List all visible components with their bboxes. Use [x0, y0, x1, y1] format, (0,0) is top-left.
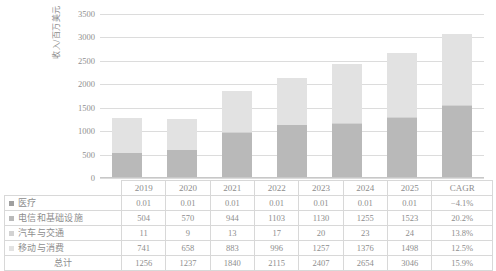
table-row: 医疗0.010.010.010.010.010.010.01−4.1% [5, 196, 493, 211]
table-cell-value: 0.01 [166, 196, 210, 211]
table-cell-value: 996 [254, 241, 298, 256]
table-header-year: 2024 [343, 181, 387, 196]
table-header-year: 2020 [166, 181, 210, 196]
y-axis-title: 收入/百万美元 [50, 0, 64, 80]
table-cell-total: 1840 [210, 256, 254, 271]
table-cell-value: 0.01 [387, 196, 431, 211]
table-cell-value: 17 [254, 226, 298, 241]
bar-segment[interactable] [112, 118, 142, 153]
total-label-text: 总计 [54, 258, 73, 268]
gridline: 3500 [100, 14, 484, 15]
bar-segment[interactable] [167, 119, 197, 150]
table-cell-value: 1103 [254, 211, 298, 226]
table-cell-value: 944 [210, 211, 254, 226]
table-corner-cell [5, 181, 122, 196]
table-cell-total: 1256 [122, 256, 166, 271]
bar-group[interactable] [332, 64, 362, 177]
table-cell-cagr: 20.2% [432, 211, 493, 226]
legend-swatch-icon [9, 201, 14, 206]
table-cell-value: 13 [210, 226, 254, 241]
gridline: 3000 [100, 37, 484, 38]
bar-segment[interactable] [277, 125, 307, 177]
legend-swatch-icon [9, 246, 14, 251]
bar-group[interactable] [167, 119, 197, 177]
legend-swatch-icon [9, 216, 14, 221]
table-cell-value: 504 [122, 211, 166, 226]
total-label: 总计 [5, 256, 122, 271]
table-header-year: 2019 [122, 181, 166, 196]
chart-plot-region: 收入/百万美元 0500100015002000250030003500 [0, 0, 496, 180]
table-row: 移动与消费74165888399612571376149812.5% [5, 241, 493, 256]
table-cell-value: 0.01 [122, 196, 166, 211]
table-cell-value: 0.01 [254, 196, 298, 211]
table-cell-value: 1523 [387, 211, 431, 226]
table-cell-value: 0.01 [210, 196, 254, 211]
legend-item[interactable]: 汽车与交通 [5, 226, 122, 241]
bar-segment[interactable] [442, 34, 472, 104]
bar-segment[interactable] [222, 91, 252, 132]
table-cell-value: 20 [299, 226, 343, 241]
table-header-row: 2019202020212022202320242025CAGR [5, 181, 493, 196]
table-cell-value: 741 [122, 241, 166, 256]
table-cell-total: 2115 [254, 256, 298, 271]
table-cell-value: 1257 [299, 241, 343, 256]
y-axis-tick-label: 2500 [78, 56, 95, 66]
table-cell-cagr: −4.1% [432, 196, 493, 211]
table-row-total: 总计125612371840211524072654304615.9% [5, 256, 493, 271]
plot-canvas: 0500100015002000250030003500 [100, 14, 484, 178]
table-row: 汽车与交通119131720232413.8% [5, 226, 493, 241]
bar-segment[interactable] [387, 53, 417, 117]
legend-item[interactable]: 电信和基础设施 [5, 211, 122, 226]
table-header-year: 2022 [254, 181, 298, 196]
legend-label: 医疗 [18, 198, 37, 208]
table-cell-value: 23 [343, 226, 387, 241]
legend-item[interactable]: 医疗 [5, 196, 122, 211]
bar-segment[interactable] [277, 78, 307, 125]
y-axis-tick-label: 2000 [78, 79, 95, 89]
table-cell-value: 1498 [387, 241, 431, 256]
bar-group[interactable] [277, 78, 307, 177]
bar-group[interactable] [222, 91, 252, 177]
x-axis-line [100, 177, 484, 178]
table-cell-total: 2654 [343, 256, 387, 271]
legend-item[interactable]: 移动与消费 [5, 241, 122, 256]
legend-label: 移动与消费 [18, 243, 65, 253]
table-cell-value: 24 [387, 226, 431, 241]
bar-group[interactable] [387, 53, 417, 177]
table-row: 电信和基础设施504570944110311301255152320.2% [5, 211, 493, 226]
table-cell-value: 883 [210, 241, 254, 256]
legend-label: 汽车与交通 [18, 228, 65, 238]
table-cell-value: 9 [166, 226, 210, 241]
table-header-year: 2025 [387, 181, 431, 196]
table-cell-total: 3046 [387, 256, 431, 271]
legend-label: 电信和基础设施 [18, 213, 83, 223]
legend-swatch-icon [9, 231, 14, 236]
table-cell-value: 1376 [343, 241, 387, 256]
table-body: 医疗0.010.010.010.010.010.010.01−4.1%电信和基础… [5, 196, 493, 271]
table-cell-value: 570 [166, 211, 210, 226]
bar-segment[interactable] [442, 106, 472, 177]
gridline: 0 [100, 178, 484, 179]
bar-segment[interactable] [112, 153, 142, 177]
y-axis-tick-label: 3000 [78, 32, 95, 42]
y-axis-tick-label: 1500 [78, 103, 95, 113]
table-cell-value: 0.01 [299, 196, 343, 211]
bar-group[interactable] [112, 118, 142, 177]
table-cell-value: 1255 [343, 211, 387, 226]
table-header-year: 2023 [299, 181, 343, 196]
bar-segment[interactable] [222, 133, 252, 177]
bar-group[interactable] [442, 34, 472, 177]
table-cell-value: 1130 [299, 211, 343, 226]
bar-segment[interactable] [167, 150, 197, 177]
bar-segment[interactable] [387, 118, 417, 177]
table-cell-total-cagr: 15.9% [432, 256, 493, 271]
data-table-wrapper: 2019202020212022202320242025CAGR 医疗0.010… [4, 180, 493, 271]
bar-segment[interactable] [332, 124, 362, 177]
table-cell-value: 658 [166, 241, 210, 256]
gridline: 2500 [100, 61, 484, 62]
table-cell-total: 2407 [299, 256, 343, 271]
table-cell-total: 1237 [166, 256, 210, 271]
bar-segment[interactable] [332, 64, 362, 123]
y-axis-tick-label: 500 [82, 150, 95, 160]
